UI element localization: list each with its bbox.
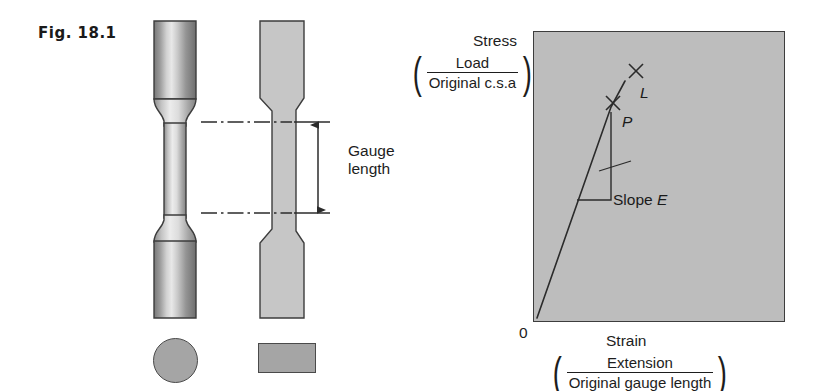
round-specimen [140, 18, 220, 323]
flat-cross-section [258, 343, 316, 373]
plot-curve-layer [533, 31, 785, 322]
slope-label: Slope E [613, 191, 667, 209]
gauge-length-label-line1: Gauge [348, 142, 395, 160]
round-cross-section [153, 338, 198, 383]
slope-label-symbol: E [657, 191, 667, 208]
point-p-marker [606, 96, 620, 110]
point-l-label: L [640, 84, 649, 102]
slope-leader-line [599, 161, 631, 171]
flat-specimen-graphic [252, 18, 324, 323]
left-paren-stress: ( [413, 55, 422, 91]
origin-label: 0 [519, 324, 528, 342]
right-paren-stress: ) [523, 55, 532, 91]
point-l-marker [629, 64, 643, 78]
gauge-length-label-line2: length [348, 160, 395, 178]
slope-label-text: Slope [613, 191, 657, 208]
y-axis-formula: ( Load Original c.s.a ) [410, 54, 535, 91]
flat-specimen [252, 18, 324, 323]
figure-18-1: Fig. 18.1 [0, 0, 819, 391]
point-p-label: P [622, 113, 632, 131]
y-axis-denominator: Original c.s.a [427, 73, 519, 91]
figure-label: Fig. 18.1 [38, 24, 117, 42]
x-axis-title: Strain [606, 332, 647, 350]
x-axis-numerator: Extension [567, 354, 714, 373]
gauge-length-label: Gauge length [348, 142, 395, 178]
x-axis-formula: ( Extension Original gauge length ) [550, 354, 730, 391]
left-paren-strain: ( [553, 355, 562, 391]
y-axis-title: Stress [457, 32, 533, 50]
stress-strain-graph: Stress ( Load Original c.s.a ) [410, 14, 810, 386]
y-axis-numerator: Load [427, 54, 519, 73]
round-specimen-graphic [140, 18, 220, 323]
x-axis-denominator: Original gauge length [567, 373, 714, 391]
right-paren-strain: ) [718, 355, 727, 391]
